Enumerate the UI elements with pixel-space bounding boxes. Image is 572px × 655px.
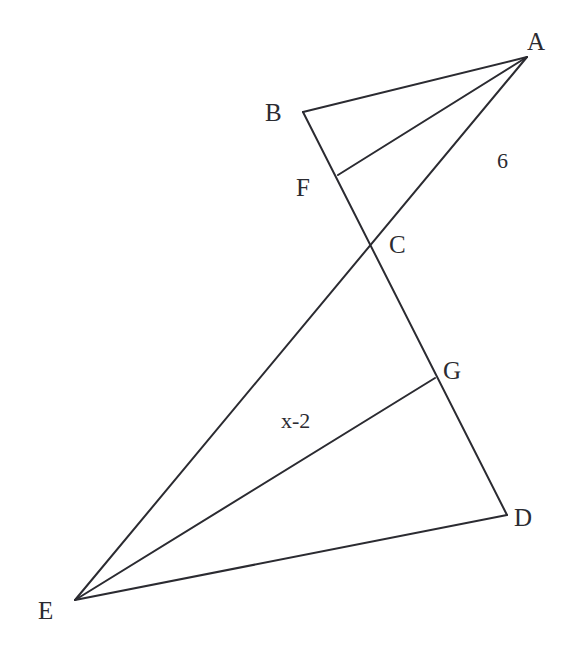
side-length-label-EG: x-2: [281, 410, 310, 432]
geometry-figure: A B F C G D E 6 x-2: [0, 0, 572, 655]
geometry-canvas: [0, 0, 572, 655]
segment-BD-through-F-C-G: [303, 112, 507, 515]
segment-AB: [303, 57, 527, 112]
vertex-label-G: G: [443, 358, 461, 383]
vertex-label-B: B: [265, 100, 282, 125]
vertex-label-E: E: [38, 598, 53, 623]
vertex-label-F: F: [296, 175, 310, 200]
vertex-label-D: D: [514, 505, 532, 530]
segment-ED: [75, 515, 507, 600]
side-length-label-AC: 6: [497, 150, 508, 172]
segment-EG: [75, 378, 435, 600]
segment-AE-through-C: [75, 57, 527, 600]
vertex-label-C: C: [389, 232, 406, 257]
vertex-label-A: A: [527, 29, 545, 54]
